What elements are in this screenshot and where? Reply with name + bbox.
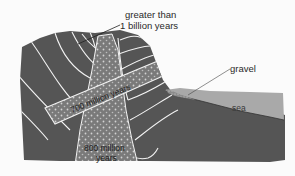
sea-label: sea: [232, 103, 246, 113]
vertical-dike-label-line2: years: [96, 153, 117, 163]
oldest-rock-label-line2: 1 billion years: [120, 21, 178, 31]
vertical-dike-label-line1: 800 million: [84, 143, 125, 153]
gravel-label: gravel: [230, 64, 256, 74]
geological-cross-section: 700 million years greater than 1 billion…: [0, 0, 295, 176]
oldest-rock-label-line1: greater than: [125, 10, 176, 20]
